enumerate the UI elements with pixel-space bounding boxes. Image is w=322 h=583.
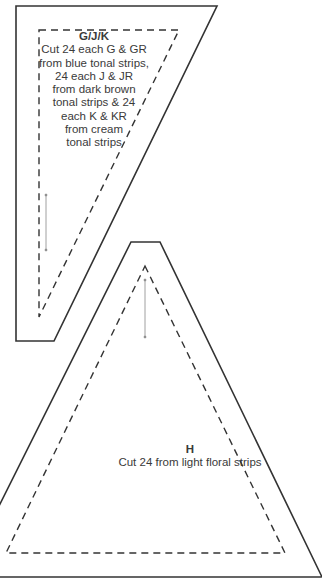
- gjk-line: tonal strips & 24: [38, 96, 150, 109]
- h-label: H Cut 24 from light floral strips: [100, 443, 280, 470]
- gjk-line: Cut 24 each G & GR: [38, 43, 150, 56]
- gjk-title: G/J/K: [38, 30, 150, 43]
- gjk-label: G/J/K Cut 24 each G & GR from blue tonal…: [38, 30, 150, 150]
- gjk-line: from blue tonal strips,: [38, 57, 150, 70]
- h-line: Cut 24 from light floral strips: [100, 456, 280, 469]
- gjk-line: from cream: [38, 123, 150, 136]
- h-grain-arrow: [144, 279, 146, 338]
- gjk-line: each K & KR: [38, 110, 150, 123]
- gjk-line: tonal strips: [38, 136, 150, 149]
- h-title: H: [100, 443, 280, 456]
- gjk-line: from dark brown: [38, 83, 150, 96]
- gjk-grain-arrow: [45, 194, 47, 251]
- h-cut-line: [0, 242, 322, 577]
- gjk-line: 24 each J & JR: [38, 70, 150, 83]
